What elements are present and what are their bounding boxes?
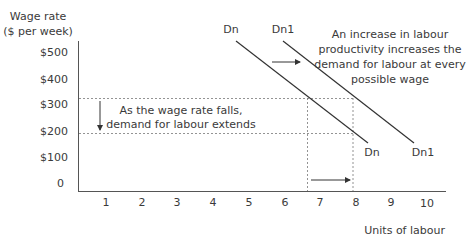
x-tick: 9 xyxy=(388,196,395,209)
y-tick: $500 xyxy=(40,46,68,59)
y-tick-labels: $500 $400 $300 $200 $100 0 xyxy=(40,46,68,190)
x-tick: 8 xyxy=(353,196,360,209)
x-tick: 6 xyxy=(282,196,289,209)
y-tick: $300 xyxy=(40,98,68,111)
x-tick-labels: 1 2 3 4 5 6 7 8 9 10 xyxy=(103,196,435,210)
annotation-line: As the wage rate falls, xyxy=(119,104,242,117)
labour-demand-chart: Wage rate ($ per week) $500 $400 $300 $2… xyxy=(0,0,470,246)
dn-bottom-label: Dn xyxy=(364,146,379,159)
x-axis-label: Units of labour xyxy=(364,224,445,237)
annotation-line: demand for labour at every xyxy=(314,58,466,71)
y-axis-label-line1: Wage rate xyxy=(10,10,67,23)
dn-top-label: Dn xyxy=(223,23,238,36)
x-tick: 2 xyxy=(139,196,146,209)
x-tick: 4 xyxy=(210,196,217,209)
y-tick: $200 xyxy=(40,125,68,138)
shift-annotation: An increase in labour productivity incre… xyxy=(314,28,466,86)
annotation-line: demand for labour extends xyxy=(106,118,256,131)
y-tick: $100 xyxy=(40,151,68,164)
annotation-line: An increase in labour xyxy=(332,28,449,41)
x-tick: 1 xyxy=(103,196,110,209)
x-tick: 10 xyxy=(420,197,434,210)
y-tick: 0 xyxy=(57,177,64,190)
x-tick: 3 xyxy=(174,196,181,209)
dn1-top-label: Dn1 xyxy=(272,23,294,36)
x-tick: 7 xyxy=(317,196,324,209)
y-axis-label-line2: ($ per week) xyxy=(3,25,73,38)
x-tick: 5 xyxy=(246,196,253,209)
dn1-bottom-label: Dn1 xyxy=(412,146,434,159)
annotation-line: possible wage xyxy=(351,73,429,86)
extension-annotation: As the wage rate falls, demand for labou… xyxy=(106,104,256,131)
annotation-line: productivity increases the xyxy=(319,43,462,56)
y-tick: $400 xyxy=(40,73,68,86)
